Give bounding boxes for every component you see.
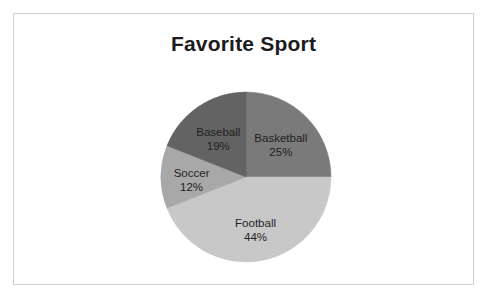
pie-slice-value: 12%: [180, 181, 203, 193]
pie-slice-value: 19%: [207, 140, 230, 152]
pie-slice-value: 25%: [269, 146, 292, 158]
pie-chart-svg: Basketball25%Football44%Soccer12%Basebal…: [14, 14, 475, 286]
pie-chart: Basketball25%Football44%Soccer12%Basebal…: [14, 14, 475, 286]
pie-slice-label: Football: [235, 217, 276, 229]
pie-slice-label: Basketball: [254, 132, 307, 144]
pie-slice-label: Baseball: [196, 126, 240, 138]
pie-slice-value: 44%: [244, 231, 267, 243]
pie-slice-label: Soccer: [174, 167, 210, 179]
chart-card: Favorite Sport Basketball25%Football44%S…: [13, 13, 474, 285]
